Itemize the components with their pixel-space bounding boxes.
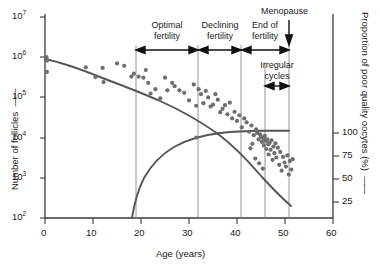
scatter-point (153, 87, 157, 91)
y2-tick-label-100: 100 (342, 127, 358, 137)
annotation-endof-line2: fertility (243, 31, 287, 42)
scatter-point (228, 101, 232, 105)
scatter-point (223, 103, 227, 107)
scatter-point (282, 160, 286, 164)
scatter-point (199, 92, 203, 96)
scatter-point (122, 64, 126, 68)
x-tick-label-20: 20 (134, 228, 145, 238)
annotation-optimal-line1: Optimal (137, 20, 197, 31)
annotation-optimal-fertility: Optimal fertility (137, 20, 197, 41)
scatter-point (263, 134, 267, 138)
follicle-decline-curve (45, 59, 291, 206)
arrow-optimal-fertility (136, 47, 198, 54)
scatter-point (233, 110, 237, 114)
scatter-point (225, 112, 229, 116)
figure-root: 107 106 105 104 103 102 100 75 50 25 0 1… (0, 0, 381, 270)
scatter-point (247, 130, 251, 134)
scatter-point (187, 98, 191, 102)
scatter-point (93, 75, 97, 79)
y-tick-label-1e2: 102 (12, 212, 26, 222)
annotation-irregular-line2: cycles (258, 71, 296, 82)
scatter-point (197, 87, 201, 91)
x-tick-label-0: 0 (41, 228, 46, 238)
scatter-point (287, 173, 291, 177)
x-tick-label-40: 40 (230, 228, 241, 238)
annotation-irregular-line1: Irregular (258, 60, 296, 71)
scatter-point (141, 76, 145, 80)
scatter-point (254, 127, 258, 131)
scatter-point (211, 103, 215, 107)
y2-axis-title: Proportion of poor quality oocytes (%) —… (360, 12, 371, 193)
y-axis-title: Number of follicles —— (9, 90, 20, 190)
scatter-point (261, 166, 265, 170)
scatter-point (264, 147, 268, 151)
scatter-point (173, 84, 177, 88)
scatter-point (230, 116, 234, 120)
poor-oocyte-curve (132, 131, 289, 218)
scatter-point (165, 88, 169, 92)
scatter-point (216, 98, 220, 102)
scatter-point (201, 101, 205, 105)
scatter-point (253, 157, 257, 161)
scatter-point (101, 80, 105, 84)
scatter-point (240, 125, 244, 129)
annotation-irregular-cycles: Irregular cycles (258, 60, 296, 81)
scatter-point (45, 70, 49, 74)
y-tick-label-1e7: 107 (12, 11, 26, 21)
x-tick-label-30: 30 (182, 228, 193, 238)
scatter-point (45, 59, 49, 63)
scatter-point (248, 146, 252, 150)
scatter-point (182, 91, 186, 95)
scatter-point (262, 143, 266, 147)
scatter-point (132, 72, 136, 76)
scatter-point (137, 74, 141, 78)
scatter-point (280, 169, 284, 173)
scatter-point (221, 107, 225, 111)
scatter-point (163, 76, 167, 80)
x-tick-label-60: 60 (326, 228, 337, 238)
y-axis-right-ticks (333, 133, 339, 202)
scatter-point (206, 95, 210, 99)
scatter-point (289, 167, 293, 171)
scatter-point (177, 88, 181, 92)
scatter-point (204, 89, 208, 93)
annotation-menopause: Menopause (261, 6, 308, 16)
x-tick-label-50: 50 (278, 228, 289, 238)
annotation-declining-line1: Declining (195, 20, 245, 31)
scatter-point (213, 92, 217, 96)
scatter-point (278, 150, 282, 154)
scatter-point (273, 141, 277, 145)
scatter-point (272, 151, 276, 155)
scatter-point (265, 137, 269, 141)
scatter-point (194, 104, 198, 108)
arrow-declining-fertility (199, 47, 241, 54)
arrow-end-of-fertility (242, 47, 289, 54)
arrow-irregular-cycles (265, 83, 289, 90)
scatter-point (270, 158, 274, 162)
scatter-point (149, 91, 153, 95)
scatter-point (158, 96, 162, 100)
y2-tick-label-75: 75 (342, 150, 353, 160)
scatter-point (274, 155, 278, 159)
scatter-point (277, 163, 281, 167)
scatter-point (146, 81, 150, 85)
scatter-point (284, 164, 288, 168)
y2-tick-label-50: 50 (342, 173, 353, 183)
y2-tick-label-25: 25 (342, 196, 353, 206)
scatter-point (285, 153, 289, 157)
annotation-declining-line2: fertility (195, 31, 245, 42)
scatter-point (245, 120, 249, 124)
scatter-point (235, 119, 239, 123)
scatter-point (269, 148, 273, 152)
scatter-point (101, 66, 105, 70)
scatter-point (84, 65, 88, 69)
scatter-point (281, 155, 285, 159)
scatter-point (269, 138, 273, 142)
scatter-point (249, 123, 253, 127)
scatter-point (194, 136, 198, 140)
y-axis-left-ticks (40, 17, 45, 218)
annotation-endof-line1: End of (243, 20, 287, 31)
scatter-point (242, 116, 246, 120)
y-tick-label-1e6: 106 (12, 51, 26, 61)
scatter-point (276, 146, 280, 150)
